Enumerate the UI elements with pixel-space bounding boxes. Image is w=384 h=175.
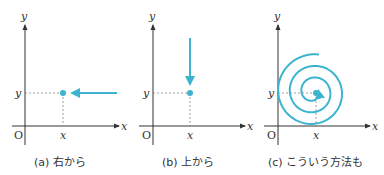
y-axis-label: y xyxy=(148,10,156,23)
origin-label: O xyxy=(14,129,23,142)
target-point xyxy=(60,90,66,96)
diagram-canvas: x y O y x x y O y x x y O y x xyxy=(0,0,384,175)
panel-c: x y O y x xyxy=(264,10,379,145)
x-axis-label: x xyxy=(121,120,128,133)
point-x-label: x xyxy=(60,129,67,142)
target-point xyxy=(313,90,319,96)
origin-label: O xyxy=(267,129,276,142)
point-x-label: x xyxy=(187,129,194,142)
point-y-label: y xyxy=(142,87,150,100)
approach-spiral xyxy=(278,54,342,124)
target-point xyxy=(187,90,193,96)
panel-b: x y O y x xyxy=(139,10,254,145)
x-axis-label: x xyxy=(372,120,379,133)
caption-a: (a) 右から xyxy=(34,153,86,169)
point-x-label: x xyxy=(313,129,320,142)
origin-label: O xyxy=(142,129,151,142)
y-axis-label: y xyxy=(20,10,28,23)
point-y-label: y xyxy=(267,87,275,100)
y-axis-label: y xyxy=(273,10,281,23)
panel-a: x y O y x xyxy=(12,10,128,145)
caption-b: (b) 上から xyxy=(162,153,214,169)
point-y-label: y xyxy=(14,87,22,100)
caption-c: (c) こういう方法も xyxy=(268,153,363,169)
x-axis-label: x xyxy=(247,120,254,133)
